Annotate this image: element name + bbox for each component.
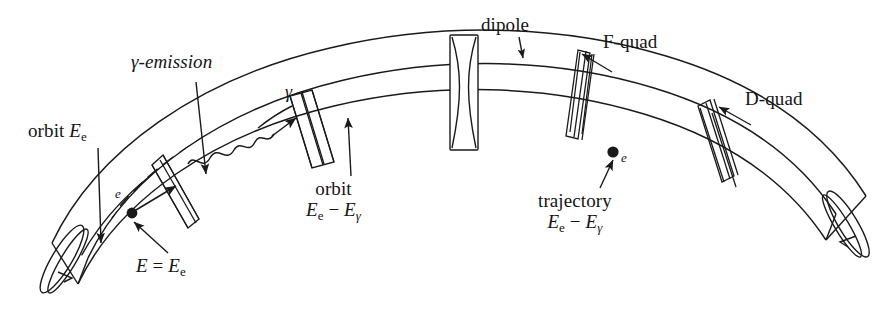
- label-orbit-reduced: orbit Ee − Eγ: [306, 178, 361, 223]
- accelerator-arc-diagram: [0, 0, 896, 310]
- arc-end-cap-right: [817, 187, 875, 262]
- quad-mid-left: [290, 90, 334, 168]
- orbit-reduced-formula: Ee − Eγ: [306, 199, 361, 223]
- leader-orbit-reduced: [348, 118, 351, 176]
- figure-root: γ-emission orbit Ee dipole F-quad D-quad…: [0, 0, 896, 310]
- dipole-text: dipole: [481, 14, 529, 35]
- trajectory-word: trajectory: [538, 190, 612, 211]
- label-d-quad: D-quad: [745, 88, 803, 109]
- leader-trajectory: [600, 160, 613, 188]
- orbit-reduced-word: orbit: [306, 178, 361, 199]
- label-gamma-photon: γ: [285, 82, 292, 103]
- orbit-Ee-symbol-E: E: [69, 120, 81, 141]
- orbit-Ee-word: orbit: [28, 120, 64, 141]
- quad-left: [152, 155, 199, 228]
- label-E-equals-Ee: E = Ee: [136, 255, 186, 279]
- label-gamma-emission: γ-emission: [131, 51, 212, 72]
- label-electron-post-emission: e: [621, 150, 627, 166]
- electron-post-emission-group: [607, 146, 618, 157]
- leader-dipole: [519, 37, 523, 58]
- label-dipole: dipole: [481, 14, 529, 35]
- label-trajectory-reduced: trajectory Ee − Eγ: [538, 190, 612, 235]
- electron-entry-dot: [127, 208, 138, 219]
- arc-end-cap-left: [33, 220, 93, 297]
- f-quad-text: F-quad: [603, 31, 657, 52]
- gamma-emission-text: γ-emission: [131, 51, 212, 72]
- trajectory-formula: Ee − Eγ: [538, 211, 612, 235]
- leader-f-quad: [582, 54, 612, 72]
- label-electron-entry: e: [115, 186, 121, 202]
- orbit-Ee-symbol-sub: e: [81, 129, 87, 144]
- quad-center-bowtie: [450, 35, 478, 150]
- electron-post-emission-dot: [607, 146, 618, 157]
- leader-E-equals-Ee: [134, 222, 168, 253]
- quad-d: [698, 99, 738, 182]
- label-f-quad: F-quad: [603, 31, 657, 52]
- label-orbit-Ee: orbit Ee: [28, 120, 87, 144]
- d-quad-text: D-quad: [745, 88, 803, 109]
